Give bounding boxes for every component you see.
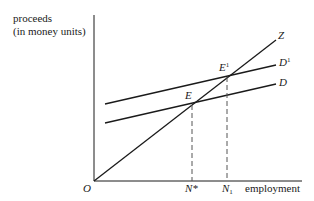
e1-label-base: E <box>219 61 226 73</box>
y-axis-label-line2: (in money units) <box>13 26 86 37</box>
e1-label-sup: 1 <box>226 61 230 69</box>
d1-label-base: D <box>279 56 287 68</box>
e1-point-label: E1 <box>219 62 229 73</box>
aggregate-supply-demand-diagram: proceeds (in money units) O Z D1 D E E1 … <box>0 0 314 201</box>
x-axis-label: employment <box>245 183 300 194</box>
z-curve-label: Z <box>278 30 284 41</box>
nstar-tick-label: N* <box>185 183 198 194</box>
d-curve-label: D <box>279 77 287 88</box>
e-point-label: E <box>185 90 192 101</box>
d1-curve-label: D1 <box>279 57 290 68</box>
y-axis-label-line1: proceeds <box>13 13 52 24</box>
d1-label-sup: 1 <box>287 56 291 64</box>
origin-label: O <box>83 183 91 194</box>
n1-tick-label: N1 <box>222 183 233 196</box>
z-curve <box>94 40 276 181</box>
n1-label-sub: 1 <box>229 188 233 196</box>
